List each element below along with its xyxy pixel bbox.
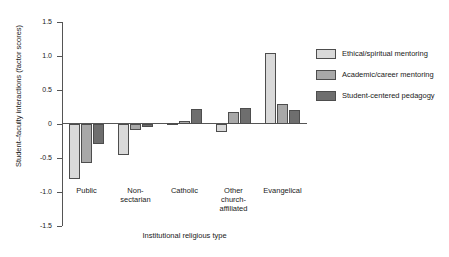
bar — [228, 112, 240, 124]
bar — [179, 121, 191, 124]
bar — [142, 124, 154, 127]
y-axis-tick-label: 1.5 — [26, 18, 52, 25]
y-axis-tick-label: -0.5 — [26, 154, 52, 161]
y-axis-tick-label: 1.0 — [26, 52, 52, 59]
bar — [216, 124, 228, 132]
legend-swatch-icon — [316, 91, 336, 101]
bar — [191, 109, 203, 124]
chart-legend: Ethical/spiritual mentoringAcademic/care… — [316, 43, 446, 106]
legend-item[interactable]: Student-centered pedagogy — [316, 85, 446, 106]
legend-swatch-icon — [316, 49, 336, 59]
y-axis-tick-label: 0 — [26, 120, 52, 127]
legend-item[interactable]: Ethical/spiritual mentoring — [316, 43, 446, 64]
bar — [69, 124, 81, 179]
x-axis-title-text: Institutional religious type — [142, 231, 226, 240]
y-axis-tick — [57, 226, 62, 227]
bar — [130, 124, 142, 130]
legend-label: Academic/career mentoring — [342, 70, 434, 79]
legend-label: Ethical/spiritual mentoring — [342, 49, 428, 58]
chart-figure: 1.51.00.50-0.5-1.0-1.5 Student–faculty i… — [0, 0, 449, 257]
y-axis-title-text: Student–faculty interactions (factor sco… — [14, 25, 23, 167]
x-axis-title: Institutional religious type — [62, 231, 307, 240]
legend-swatch-icon — [316, 70, 336, 80]
bar — [240, 108, 252, 124]
legend-item[interactable]: Academic/career mentoring — [316, 64, 446, 85]
y-axis-tick-label: -1.0 — [26, 188, 52, 195]
bar — [277, 104, 289, 124]
legend-label: Student-centered pedagogy — [342, 91, 435, 100]
x-axis-category-label: Evangelical — [246, 186, 320, 195]
bar — [265, 53, 277, 124]
bar — [167, 123, 179, 125]
y-axis-tick-label: -1.5 — [26, 222, 52, 229]
y-axis-title: Student–faculty interactions (factor sco… — [15, 11, 23, 181]
bar — [81, 124, 93, 163]
y-axis-tick-label: 0.5 — [26, 86, 52, 93]
bar — [289, 110, 301, 124]
bar — [118, 124, 130, 155]
bar — [93, 124, 105, 144]
